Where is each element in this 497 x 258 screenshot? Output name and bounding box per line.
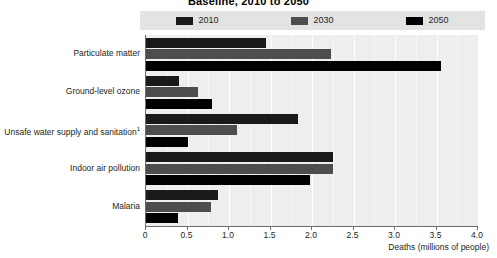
legend-item-2030: 2030 xyxy=(291,16,333,25)
chart-legend: 2010 2030 2050 xyxy=(140,11,485,30)
x-tick-label: 1.0 xyxy=(222,231,234,240)
category-label: Ground-level ozone xyxy=(0,87,140,96)
bar xyxy=(146,164,333,174)
x-tick-label: 4.0 xyxy=(471,231,483,240)
plot-area xyxy=(145,35,478,226)
x-tick-label: 0.5 xyxy=(181,231,193,240)
category-label: Malaria xyxy=(0,202,140,211)
legend-swatch-2030 xyxy=(291,17,308,25)
bar xyxy=(146,125,237,135)
bar-group xyxy=(146,35,478,73)
bar xyxy=(146,190,218,200)
bar-group xyxy=(146,73,478,111)
bar xyxy=(146,87,198,97)
x-tick-label: 0 xyxy=(143,231,148,240)
x-tick-label: 1.5 xyxy=(264,231,276,240)
category-label: Particulate matter xyxy=(0,49,140,58)
legend-label-2010: 2010 xyxy=(198,16,218,25)
bar-group xyxy=(146,150,478,188)
bar-group xyxy=(146,111,478,149)
bar xyxy=(146,202,211,212)
category-label: Indoor air pollution xyxy=(0,164,140,173)
bar xyxy=(146,114,298,124)
bar xyxy=(146,38,266,48)
bar xyxy=(146,213,178,223)
bar xyxy=(146,152,333,162)
footnote-marker: 1 xyxy=(137,126,140,132)
x-tick-label: 3.0 xyxy=(388,231,400,240)
legend-label-2030: 2030 xyxy=(313,16,333,25)
bar xyxy=(146,76,179,86)
category-label: Unsafe water supply and sanitation1 xyxy=(0,126,140,136)
bar xyxy=(146,137,188,147)
legend-item-2050: 2050 xyxy=(406,16,448,25)
x-tick-label: 2.5 xyxy=(347,231,359,240)
bar xyxy=(146,61,441,71)
legend-swatch-2050 xyxy=(406,17,423,25)
legend-label-2050: 2050 xyxy=(428,16,448,25)
category-axis-labels: Particulate matterGround-level ozoneUnsa… xyxy=(0,35,140,226)
bar xyxy=(146,175,310,185)
chart-title: Baseline, 2010 to 2050 xyxy=(0,0,497,7)
legend-item-2010: 2010 xyxy=(176,16,218,25)
x-axis-title: Deaths (millions of people) xyxy=(388,243,489,252)
bar xyxy=(146,99,212,109)
x-tick-label: 2.0 xyxy=(305,231,317,240)
legend-swatch-2010 xyxy=(176,17,193,25)
bar xyxy=(146,49,331,59)
gridline-4 xyxy=(478,35,479,226)
bar-group xyxy=(146,188,478,226)
x-tick-label: 3.5 xyxy=(430,231,442,240)
